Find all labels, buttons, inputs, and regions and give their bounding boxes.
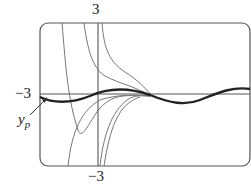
yp-main: y	[18, 111, 25, 127]
y-bottom-tick-label: −3	[88, 169, 104, 184]
yp-annotation: yp	[18, 112, 30, 127]
solution-curve-6	[104, 97, 140, 166]
yp-sub: p	[25, 118, 31, 130]
x-left-tick-label: −3	[15, 86, 31, 101]
solution-curve-4	[68, 95, 150, 166]
solution-curve-2	[84, 23, 150, 96]
plot-area	[0, 0, 251, 185]
solution-curve-1	[62, 23, 150, 133]
y-top-tick-label: 3	[92, 2, 100, 17]
